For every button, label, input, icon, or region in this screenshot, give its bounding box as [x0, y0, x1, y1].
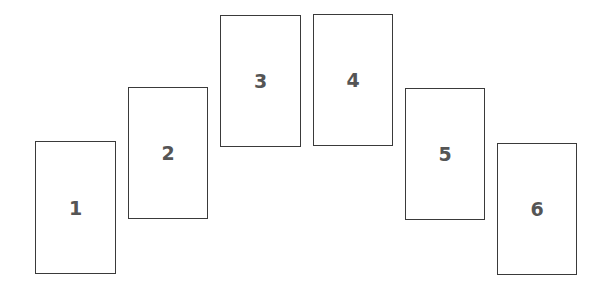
card-number: 5	[438, 143, 451, 165]
card-4[interactable]: 4	[313, 14, 393, 146]
card-number: 2	[161, 142, 174, 164]
card-number: 1	[69, 197, 82, 219]
card-number: 3	[254, 70, 267, 92]
card-6[interactable]: 6	[497, 143, 577, 275]
card-2[interactable]: 2	[128, 87, 208, 219]
card-3[interactable]: 3	[220, 15, 301, 147]
card-number: 4	[346, 69, 359, 91]
card-number: 6	[530, 198, 543, 220]
card-1[interactable]: 1	[35, 141, 116, 274]
card-5[interactable]: 5	[405, 88, 485, 220]
